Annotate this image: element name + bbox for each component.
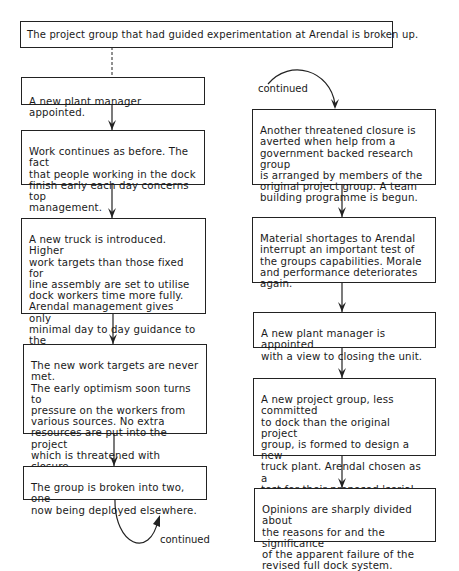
left-box-3: A new truck is introduced. Higher work t…	[21, 218, 206, 314]
right-box-5-text: Opinions are sharply divided about the r…	[262, 504, 414, 571]
left-box-5: The group is broken into two, one now be…	[23, 466, 207, 500]
continued-label-right: continued	[258, 83, 308, 94]
right-box-3: A new plant manager is appointed with a …	[253, 312, 436, 348]
left-box-2: Work continues as before. The fact that …	[21, 130, 205, 185]
right-box-4: A new project group, less committed to d…	[253, 378, 436, 456]
header-box: The project group that had guided experi…	[20, 21, 393, 48]
right-box-5: Opinions are sharply divided about the r…	[254, 488, 436, 542]
right-box-2: Material shortages to Arendal interrupt …	[252, 217, 436, 283]
left-box-4: The new work targets are never met. The …	[23, 344, 207, 434]
right-box-3-text: A new plant manager is appointed with a …	[261, 328, 422, 361]
left-box-5-text: The group is broken into two, one now be…	[31, 482, 197, 515]
left-box-1: A new plant manager appointed.	[21, 77, 205, 105]
right-box-2-text: Material shortages to Arendal interrupt …	[260, 233, 422, 289]
header-title: The project group that had guided experi…	[27, 29, 418, 40]
continued-label-left: continued	[160, 534, 210, 545]
right-box-1: Another threatened closure is averted wh…	[252, 109, 436, 185]
right-box-1-text: Another threatened closure is averted wh…	[260, 125, 422, 203]
